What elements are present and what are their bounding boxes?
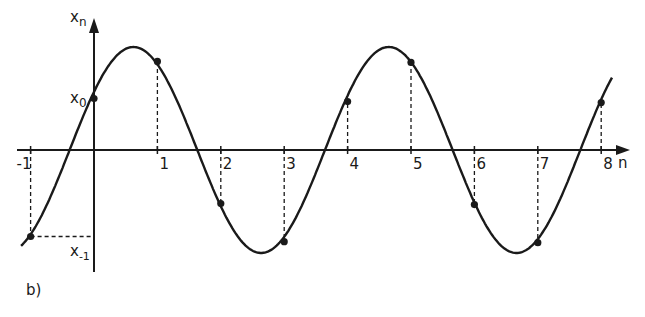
- x0-label: x0: [70, 89, 87, 110]
- sample-point-n4: [344, 98, 351, 105]
- x-tick-label-6: 6: [476, 155, 486, 173]
- x-tick-label-2: 2: [223, 155, 233, 173]
- sample-point-n0: [90, 95, 97, 102]
- panel-label: b): [26, 281, 41, 299]
- x-tick-label-1: 1: [159, 155, 169, 173]
- y-axis-label-subscript: n: [79, 15, 87, 29]
- y-axis-label: xn: [70, 8, 87, 29]
- x-tick-label-5: 5: [413, 155, 423, 173]
- sample-point-n-1: [27, 233, 34, 240]
- x-tick-label-3: 3: [286, 155, 296, 173]
- y-axis-arrowhead: [89, 18, 99, 33]
- sample-point-n2: [217, 200, 224, 207]
- x-tick-label-4: 4: [350, 155, 360, 173]
- x-tick-label-8: 8: [603, 155, 613, 173]
- sample-point-n5: [407, 59, 414, 66]
- sample-point-n3: [281, 238, 288, 245]
- sample-point-n1: [154, 58, 161, 65]
- x-minus1-label: x-1: [70, 242, 90, 263]
- x-tick-label-7: 7: [540, 155, 550, 173]
- x-tick-label--1: -1: [17, 155, 32, 173]
- sampled-sinusoid-diagram: xn n x0 x-1 b) -112345678: [0, 0, 645, 317]
- sample-point-n6: [471, 201, 478, 208]
- x-axis-label: n: [618, 154, 628, 172]
- sample-point-n8: [598, 99, 605, 106]
- sample-point-n7: [534, 239, 541, 246]
